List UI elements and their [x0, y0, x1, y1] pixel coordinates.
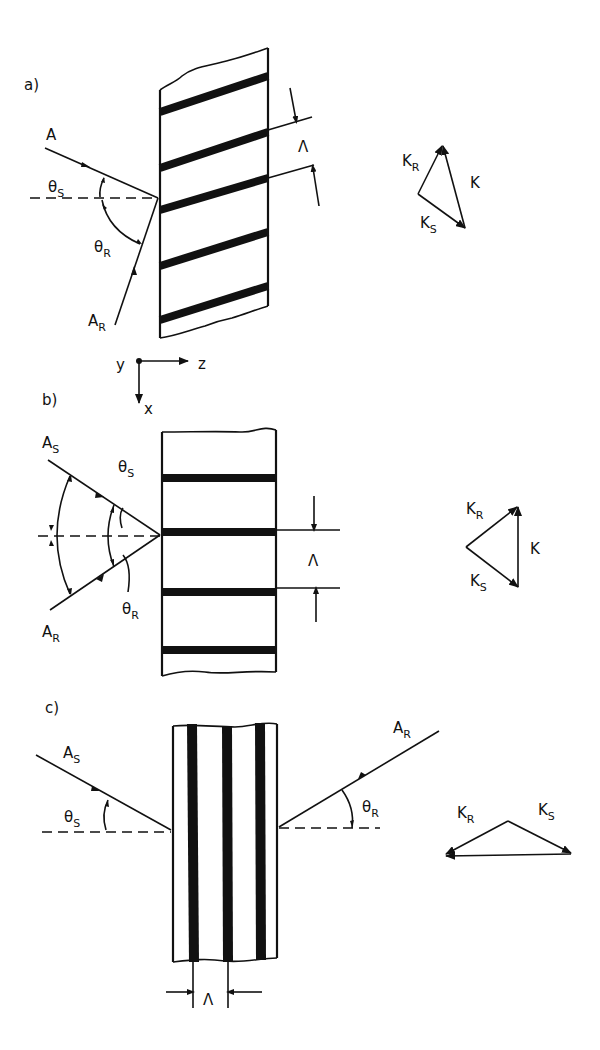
grating-c — [166, 723, 277, 1008]
k-r-label-b: KR — [466, 500, 484, 522]
beam-a-label: A — [46, 126, 57, 144]
theta-s-leader-b — [120, 508, 123, 528]
k-s-label-a: KS — [420, 214, 437, 236]
theta-s-label-c: θS — [64, 808, 80, 830]
panel-b-label: b) — [42, 391, 57, 409]
beam-ar-b — [50, 535, 160, 610]
coordinate-axes: y z x — [116, 355, 206, 418]
theta-r-label-c: θR — [362, 798, 379, 820]
axis-z-label: z — [198, 355, 206, 373]
grating-period-label-c: Λ — [203, 991, 214, 1009]
grating-a — [160, 48, 319, 338]
theta-r-label-a: θR — [94, 238, 111, 260]
angle-arc-theta-r-a — [102, 200, 140, 244]
k-label-a: K — [470, 174, 481, 192]
theta-r-label-b: θR — [122, 600, 139, 622]
k-vector-diagram-c: KR KS — [446, 801, 571, 856]
beam-as-label-b: AS — [42, 434, 59, 456]
beam-ar-label: AR — [88, 312, 106, 334]
theta-s-label-a: θS — [48, 178, 64, 200]
beam-as-label-c: AS — [63, 744, 80, 766]
grating-period-label-b: Λ — [308, 552, 319, 570]
k-r-label-a: KR — [402, 152, 420, 174]
panel-a-label: a) — [24, 76, 39, 94]
axis-y-label: y — [116, 356, 125, 374]
panel-c-label: c) — [45, 699, 59, 717]
k-label-b: K — [530, 540, 541, 558]
panel-a: a) Λ A AR — [24, 48, 481, 338]
outer-angle-arc-b — [57, 476, 70, 594]
beam-ar-label-b: AR — [42, 623, 60, 645]
k-vector-diagram-a: KR K KS — [402, 146, 481, 236]
axis-x-label: x — [144, 400, 153, 418]
beam-ar-c — [279, 731, 439, 827]
theta-s-label-b: θS — [118, 458, 134, 480]
k-vector-diagram-b: KR K KS — [466, 500, 541, 594]
beam-as-b — [48, 460, 160, 535]
hologram-grating-diagram: a) Λ A AR — [0, 0, 600, 1050]
beam-a-reference — [115, 198, 158, 325]
k-s-label-c: KS — [538, 801, 555, 823]
panel-b: b) Λ AS — [38, 391, 541, 676]
grating-period-label-a: Λ — [298, 138, 309, 156]
k-r-label-c: KR — [457, 804, 475, 826]
beam-ar-label-c: AR — [393, 719, 411, 741]
panel-c: c) Λ AS θS AR θR — [36, 699, 571, 1009]
k-s-label-b: KS — [470, 572, 487, 594]
